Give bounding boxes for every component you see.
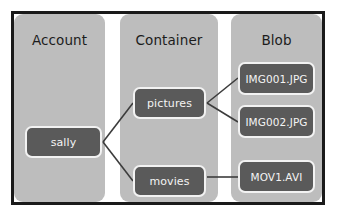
column-account: Account (14, 14, 105, 202)
node-mov1[interactable]: MOV1.AVI (238, 160, 315, 193)
node-img002[interactable]: IMG002.JPG (238, 105, 315, 138)
node-img002-label: IMG002.JPG (245, 116, 307, 128)
diagram-canvas: Account Container Blob sally pictures mo… (0, 0, 337, 221)
node-movies-label: movies (149, 175, 189, 188)
node-pictures[interactable]: pictures (133, 87, 206, 119)
column-blob-title: Blob (231, 32, 322, 48)
node-sally-label: sally (51, 136, 77, 149)
node-img001-label: IMG001.JPG (245, 73, 307, 85)
node-movies[interactable]: movies (133, 165, 206, 197)
column-account-title: Account (14, 32, 105, 48)
node-pictures-label: pictures (147, 97, 192, 110)
node-mov1-label: MOV1.AVI (251, 171, 303, 183)
node-img001[interactable]: IMG001.JPG (238, 62, 315, 95)
column-container-title: Container (120, 32, 218, 48)
node-sally[interactable]: sally (25, 126, 102, 158)
